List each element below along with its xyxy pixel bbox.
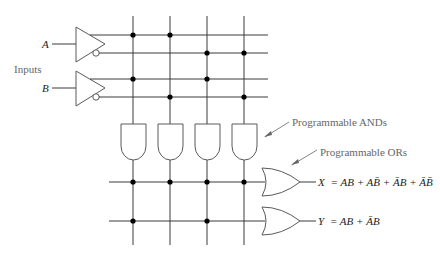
inputs-label: Inputs — [14, 63, 42, 75]
and-gate-icon — [158, 124, 183, 160]
buffer-a-icon — [76, 27, 105, 62]
input-b-label: B — [42, 82, 49, 94]
arrow-ands-icon — [264, 122, 289, 137]
or-array-columns — [133, 160, 244, 245]
input-a-label: A — [41, 38, 49, 50]
equation-y: Y = AB + ĀB — [318, 215, 380, 227]
and-gate-icon — [121, 124, 146, 160]
or-gate-y-icon — [262, 207, 300, 235]
annotation-ors: Programmable ORs — [320, 146, 407, 158]
arrow-ors-icon — [291, 150, 317, 165]
and-array-columns — [133, 16, 244, 124]
and-gate-icon — [232, 124, 257, 160]
or-connection-dots — [130, 179, 246, 223]
or-gate-x-icon — [262, 168, 300, 196]
pla-diagram: A Inputs B — [0, 0, 440, 255]
equation-x: X = AB + AB̄ + ĀB + ĀB̄ — [317, 176, 433, 188]
and-gate-icon — [195, 124, 220, 160]
annotation-ands: Programmable ANDs — [292, 116, 387, 128]
and-connection-dots — [130, 32, 246, 99]
buffer-b-icon — [76, 71, 105, 106]
